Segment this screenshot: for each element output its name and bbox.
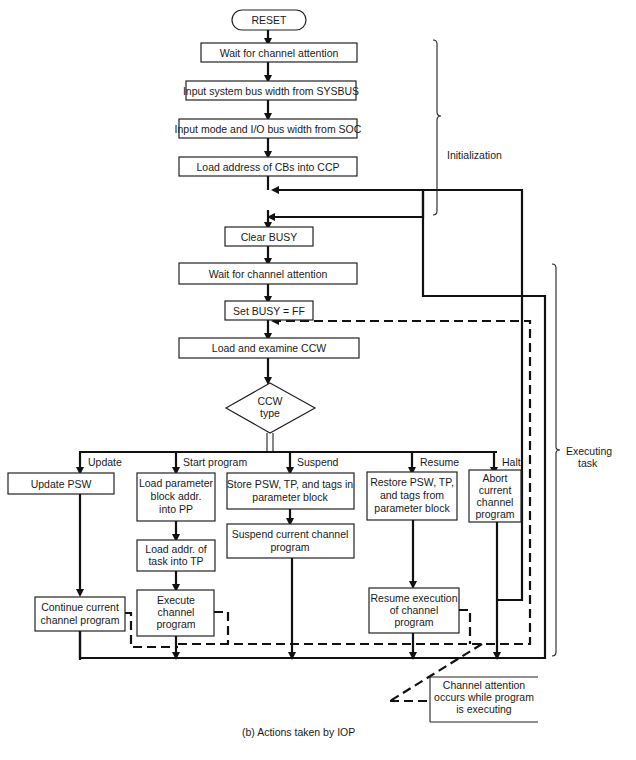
dashed-from-execute bbox=[214, 612, 228, 644]
decision-label-line1: CCW bbox=[257, 395, 282, 407]
load-param-line2: block addr. bbox=[151, 490, 202, 502]
executing-label-line1: Executing bbox=[566, 445, 612, 457]
load-cbs-label: Load address of CBs into CCP bbox=[197, 161, 340, 173]
abort-line2: current bbox=[479, 484, 512, 496]
load-addr-line2: task into TP bbox=[148, 555, 203, 567]
branch-label-suspend: Suspend bbox=[297, 456, 339, 468]
update-psw-label: Update PSW bbox=[31, 478, 92, 490]
resume-exec-line1: Resume execution bbox=[371, 592, 458, 604]
branch-label-halt: Halt bbox=[502, 456, 521, 468]
executing-label-line2: task bbox=[578, 457, 598, 469]
wait-attention-label-1: Wait for channel attention bbox=[220, 47, 339, 59]
input-mode-label: Input mode and I/O bus width from SOC bbox=[175, 123, 362, 135]
branch-label-start: Start program bbox=[183, 456, 247, 468]
wait-attention-label-2: Wait for channel attention bbox=[209, 268, 328, 280]
set-busy-label: Set BUSY = FF bbox=[233, 305, 305, 317]
decision-label-line2: type bbox=[260, 407, 280, 419]
store-psw-line1: Store PSW, TP, and tags in bbox=[227, 478, 353, 490]
load-ccw-label: Load and examine CCW bbox=[212, 342, 326, 354]
suspend-prog-line2: program bbox=[270, 541, 309, 553]
return-to-clear-busy bbox=[80, 190, 545, 658]
input-sysbus-label: Input system bus width from SYSBUS bbox=[183, 85, 359, 97]
load-param-line1: Load parameter bbox=[139, 477, 214, 489]
restore-psw-line2: and tags from bbox=[380, 489, 444, 501]
abort-line3: channel bbox=[477, 496, 514, 508]
execute-line2: channel bbox=[158, 606, 195, 618]
resume-exec-line2: of channel bbox=[390, 604, 438, 616]
restore-psw-line3: parameter block bbox=[374, 502, 450, 514]
suspend-prog-line1: Suspend current channel bbox=[232, 528, 349, 540]
note-line3: is executing bbox=[456, 703, 512, 715]
note-line1: Channel attention bbox=[443, 679, 525, 691]
abort-line1: Abort bbox=[482, 472, 507, 484]
note-line2: occurs while program bbox=[434, 691, 534, 703]
execute-line3: program bbox=[156, 618, 195, 630]
restore-psw-line1: Restore PSW, TP, bbox=[370, 476, 454, 488]
continue-label-line2: channel program bbox=[41, 614, 120, 626]
figure-caption: (b) Actions taken by IOP bbox=[242, 726, 355, 738]
resume-exec-line3: program bbox=[394, 616, 433, 628]
store-psw-line2: parameter block bbox=[252, 491, 328, 503]
execute-line1: Execute bbox=[157, 594, 195, 606]
clear-busy-label: Clear BUSY bbox=[241, 231, 298, 243]
abort-line4: program bbox=[475, 508, 514, 520]
initialization-brace bbox=[433, 40, 441, 215]
load-addr-line1: Load addr. of bbox=[145, 543, 206, 555]
dashed-from-resume bbox=[459, 610, 470, 644]
executing-brace bbox=[552, 264, 560, 656]
branch-label-resume: Resume bbox=[420, 456, 459, 468]
iop-flowchart: RESET Wait for channel attention Input s… bbox=[0, 0, 636, 760]
initialization-label: Initialization bbox=[447, 149, 502, 161]
load-param-line3: into PP bbox=[159, 503, 193, 515]
branch-label-update: Update bbox=[88, 456, 122, 468]
continue-label-line1: Continue current bbox=[41, 601, 119, 613]
reset-label: RESET bbox=[251, 14, 287, 26]
